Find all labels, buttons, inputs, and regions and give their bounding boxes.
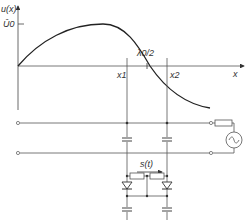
displacement-label: s(t) xyxy=(140,159,153,169)
x-axis-label: x xyxy=(232,69,238,79)
x1-label: x1 xyxy=(116,70,127,80)
x2-label: x2 xyxy=(169,70,180,80)
diode-x1-icon xyxy=(121,180,133,190)
filter-capacitor-x2 xyxy=(162,207,172,212)
source-resistor xyxy=(215,120,232,126)
coupling-capacitor-x1 xyxy=(122,137,132,142)
junction-x1 xyxy=(126,122,129,125)
y-axis-label: u(x) xyxy=(1,4,17,14)
terminal-top-right xyxy=(209,121,212,124)
graph: u(x) Û0 x λ0/2 x1 x2 xyxy=(1,4,244,110)
detector-bridge xyxy=(121,173,173,212)
bridge-resistor-left xyxy=(130,173,144,179)
peak-label: Û0 xyxy=(3,19,15,29)
terminal-top-left xyxy=(16,121,19,124)
bridge-resistor-right xyxy=(150,173,164,179)
filter-capacitor-x1 xyxy=(122,207,132,212)
standing-wave-probe-diagram: u(x) Û0 x λ0/2 x1 x2 xyxy=(0,0,249,224)
diode-x2-icon xyxy=(161,180,173,190)
junction-x2 xyxy=(166,122,169,125)
coupling-capacitor-x2 xyxy=(162,137,172,142)
terminal-bottom-left xyxy=(16,151,19,154)
terminal-bottom-right xyxy=(209,151,212,154)
